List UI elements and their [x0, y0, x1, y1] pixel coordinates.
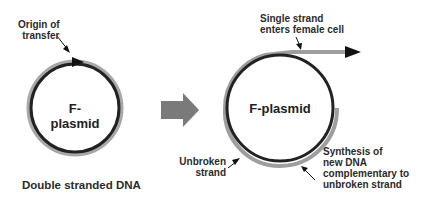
- synthesis-line1: Synthesis of: [323, 146, 409, 157]
- synthesis-line3: complementary to: [323, 168, 409, 179]
- unbroken-line1: Unbroken: [178, 156, 226, 167]
- synthesis-label: Synthesis of new DNA complementary to un…: [323, 146, 409, 190]
- synthesis-line4: unbroken strand: [323, 179, 409, 190]
- transition-arrow-icon: [161, 93, 199, 127]
- double-stranded-caption: Double stranded DNA: [22, 180, 141, 191]
- unbroken-pointer-icon: [228, 158, 240, 168]
- single-strand-label: Single strand enters female cell: [260, 13, 344, 35]
- single-strand-line1: Single strand: [260, 13, 344, 24]
- synthesis-line2: new DNA: [323, 157, 409, 168]
- unbroken-strand-label: Unbroken strand: [178, 156, 226, 178]
- right-plasmid-label: F-plasmid: [248, 101, 312, 116]
- origin-label: Origin of transfer: [18, 19, 60, 41]
- origin-label-line1: Origin of: [18, 19, 60, 30]
- unbroken-line2: strand: [178, 167, 226, 178]
- single-strand-line2: enters female cell: [260, 24, 344, 35]
- synthesis-pointer-icon: [301, 166, 315, 180]
- left-plasmid-label: F-plasmid: [45, 101, 105, 131]
- single-strand-pointer-icon: [296, 37, 302, 50]
- single-strand-arrowhead-icon: [345, 46, 361, 58]
- origin-label-line2: transfer: [22, 30, 60, 41]
